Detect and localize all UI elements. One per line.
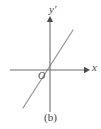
figure-caption: (b) (0, 112, 101, 123)
coordinate-axes-plot (0, 0, 101, 129)
y-axis-arrowhead-icon (47, 16, 53, 22)
figure-panel: y′ x O (b) (0, 0, 101, 129)
y-axis-label: y′ (49, 4, 56, 15)
diagonal-line (23, 30, 73, 108)
x-axis-arrowhead-icon (84, 67, 90, 73)
origin-label: O (38, 71, 45, 81)
x-axis-label: x (92, 62, 97, 73)
